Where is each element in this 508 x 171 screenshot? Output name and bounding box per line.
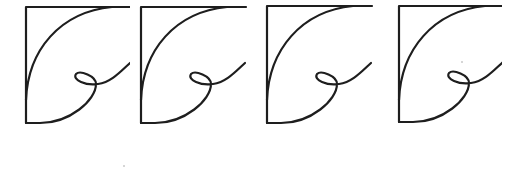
loop-curve [267,63,371,123]
speck-dot [461,61,463,63]
quarter-arc [267,6,353,100]
frame-lines [141,7,246,123]
loop-curve-figure-icon [372,0,502,130]
frame-lines [26,7,130,123]
loop-curve [141,63,245,123]
figure-4 [372,0,502,130]
loop-curve-figure-icon [0,0,130,130]
quarter-arc [141,7,227,100]
frame-lines [267,6,372,123]
frame-lines [399,6,502,122]
loop-curve-figure-icon [248,0,378,130]
loop-curve-figure-icon [122,0,252,130]
loop-curve [399,62,502,122]
figure-2 [122,0,252,130]
speck-dot [123,165,125,167]
quarter-arc [26,7,112,100]
figure-3 [248,0,378,130]
diagram-canvas [0,0,508,171]
loop-curve [26,63,130,123]
quarter-arc [399,6,485,100]
figure-1 [0,0,130,130]
